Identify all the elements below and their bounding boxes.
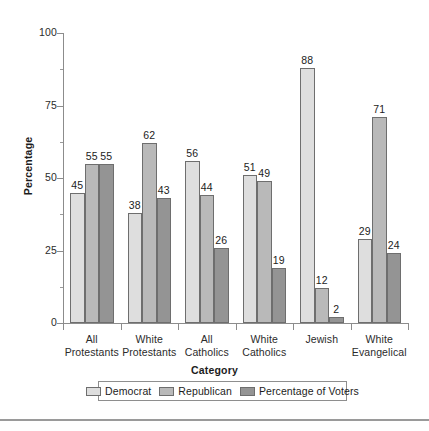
bar <box>329 317 344 323</box>
bar-value-label: 24 <box>382 239 407 251</box>
x-tick <box>121 324 122 330</box>
bar <box>200 195 215 323</box>
x-category-label-line: White <box>343 333 417 346</box>
x-category-label-line: Evangelical <box>343 346 417 359</box>
legend-swatch-icon <box>240 387 255 396</box>
y-tick-label: 25 <box>5 244 57 256</box>
legend-swatch-icon <box>86 387 101 396</box>
bar-value-label: 55 <box>94 150 119 162</box>
legend-label: Percentage of Voters <box>259 385 359 397</box>
x-tick <box>178 324 179 330</box>
legend-swatch-icon <box>159 387 174 396</box>
y-tick-label: 100 <box>5 26 57 38</box>
bar <box>243 175 258 323</box>
bar <box>157 198 172 323</box>
x-axis-title: Category <box>0 364 429 376</box>
plot-area: 45555538624356442651491988122297124 <box>63 33 408 323</box>
bar <box>387 253 402 323</box>
legend-item[interactable]: Democrat <box>86 385 151 397</box>
bar-value-label: 88 <box>295 54 320 66</box>
y-tick-label: 0 <box>5 316 57 328</box>
bar-chart-figure: Percentage 0255075100 455555386243564426… <box>0 0 429 431</box>
bar <box>70 193 85 324</box>
bar-value-label: 19 <box>267 254 292 266</box>
chart-legend: DemocratRepublicanPercentage of Voters <box>98 381 347 401</box>
bar-value-label: 2 <box>324 303 349 315</box>
bar <box>272 268 287 323</box>
bar <box>372 117 387 323</box>
legend-item[interactable]: Republican <box>159 385 232 397</box>
y-axis-title: Percentage <box>22 106 34 226</box>
x-category-label-line: Catholics <box>228 346 302 359</box>
y-tick-label: 75 <box>5 99 57 111</box>
bar <box>214 248 229 323</box>
x-category-label: WhiteEvangelical <box>343 333 417 358</box>
legend-item[interactable]: Percentage of Voters <box>240 385 359 397</box>
bar <box>85 164 100 324</box>
bar-value-label: 43 <box>152 184 177 196</box>
y-tick-label: 50 <box>5 171 57 183</box>
bar <box>257 181 272 323</box>
x-tick <box>293 324 294 330</box>
legend-label: Republican <box>178 385 232 397</box>
x-tick <box>408 324 409 330</box>
legend-label: Democrat <box>105 385 151 397</box>
bar-value-label: 12 <box>310 274 335 286</box>
bar-value-label: 44 <box>195 181 220 193</box>
bar-value-label: 62 <box>137 129 162 141</box>
bar <box>358 239 373 323</box>
bar-value-label: 71 <box>367 103 392 115</box>
bar <box>99 164 114 324</box>
x-tick <box>351 324 352 330</box>
bar-value-label: 49 <box>252 167 277 179</box>
bar <box>142 143 157 323</box>
x-tick <box>236 324 237 330</box>
bar <box>128 213 143 323</box>
bar-value-label: 56 <box>180 147 205 159</box>
bottom-divider <box>0 419 429 421</box>
x-tick <box>63 324 64 330</box>
bar-value-label: 26 <box>209 234 234 246</box>
